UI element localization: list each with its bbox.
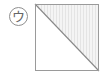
label-glyph-text: ウ bbox=[12, 10, 25, 23]
square-with-diagonal-svg bbox=[35, 4, 99, 71]
square-with-diagonal bbox=[35, 4, 99, 71]
circled-katakana-u-label: ウ bbox=[9, 7, 28, 26]
figure-root: ウ bbox=[0, 0, 104, 76]
